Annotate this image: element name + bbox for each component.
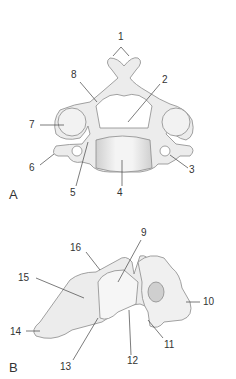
- callout-9: 9: [141, 228, 147, 238]
- callout-15: 15: [18, 273, 29, 283]
- callout-13: 13: [60, 362, 71, 372]
- callout-5: 5: [70, 188, 76, 198]
- vertebra-lateral-view: [34, 256, 191, 339]
- callout-4: 4: [117, 188, 123, 198]
- callout-6: 6: [29, 163, 35, 173]
- callout-1: 1: [118, 32, 124, 42]
- panel-label-a: A: [9, 188, 18, 201]
- callout-10: 10: [203, 297, 214, 307]
- callout-11: 11: [164, 340, 174, 350]
- callout-14: 14: [10, 327, 21, 337]
- callout-7: 7: [29, 120, 35, 130]
- callout-16: 16: [70, 243, 81, 253]
- callout-3: 3: [189, 165, 195, 175]
- callout-2: 2: [162, 75, 168, 85]
- callout-12: 12: [127, 356, 138, 366]
- callout-8: 8: [71, 70, 77, 80]
- panel-label-b: B: [9, 361, 18, 374]
